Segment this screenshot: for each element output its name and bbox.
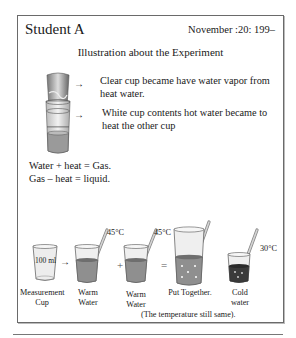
divider-line xyxy=(13,334,283,335)
clear-cup-note: Clear cup became have water vapor from h… xyxy=(100,75,280,100)
stacked-cups-illustration xyxy=(42,71,74,161)
student-name: Student A xyxy=(25,21,85,38)
measurement-cup-label: Measurement Cup xyxy=(20,288,64,307)
equation-line-2: Gas – heat = liquid. xyxy=(29,173,111,186)
student-card: Student A November :20: 199– Illustratio… xyxy=(17,15,284,323)
cold-water-label: Cold water xyxy=(226,288,254,307)
cold-water-cup-icon xyxy=(227,228,267,284)
volume-label: 100 ml xyxy=(35,256,56,265)
date: November :20: 199– xyxy=(188,24,275,35)
temperature-footnote: (The temperature still same). xyxy=(141,310,236,319)
cold-water-temp: 30°C xyxy=(260,244,277,253)
arrow-icon: → xyxy=(74,109,84,120)
experiment-title: Illustration about the Experiment xyxy=(18,46,283,58)
warm-water-temp: 45°C xyxy=(107,228,124,237)
warm-water-temp: 45°C xyxy=(154,228,171,237)
combined-cup-icon xyxy=(173,221,215,287)
equation-line-1: Water + heat = Gas. xyxy=(29,160,111,173)
warm-water-label: Warm Water xyxy=(122,290,150,309)
put-together-label: Put Together. xyxy=(168,288,212,298)
equals-sign: = xyxy=(161,259,167,271)
equations: Water + heat = Gas. Gas – heat = liquid. xyxy=(29,160,111,185)
arrow-icon: → xyxy=(74,78,84,89)
arrow-icon: → xyxy=(60,256,70,267)
white-cup-note: White cup contents hot water became to h… xyxy=(102,107,282,132)
warm-water-label: Warm Water xyxy=(74,288,102,307)
